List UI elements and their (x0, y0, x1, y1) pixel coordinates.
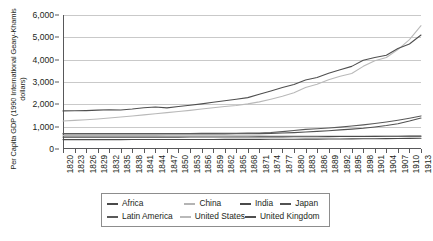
x-axis-tick-mark (421, 149, 422, 153)
legend-item-label: China (199, 199, 221, 208)
x-axis-tick-label: 1898 (367, 155, 376, 173)
series-line-japan (63, 118, 421, 134)
x-axis-tick-mark (63, 149, 64, 153)
x-axis-tick-label: 1847 (171, 155, 180, 173)
x-axis-tick-mark (109, 149, 110, 153)
x-axis-tick-label: 1832 (113, 155, 122, 173)
x-axis-tick-mark (329, 149, 330, 153)
x-axis-tick-mark (132, 149, 133, 153)
legend-line-icon (184, 203, 195, 205)
x-axis-tick-mark (75, 149, 76, 153)
y-axis-tick-mark (55, 126, 59, 127)
legend-item-japan[interactable]: Japan (280, 199, 324, 208)
y-axis-tick-mark (55, 149, 59, 150)
legend-item-label: United States (195, 212, 245, 221)
plot-area (63, 15, 421, 149)
x-axis-tick-label: 1871 (263, 155, 272, 173)
series-line-united-states (63, 26, 421, 121)
x-axis-tick-mark (317, 149, 318, 153)
x-axis-tick-label: 1901 (378, 155, 387, 173)
x-axis-tick-mark (271, 149, 272, 153)
y-axis-tick-label: 0 (49, 145, 54, 154)
legend-item-united-states[interactable]: United States (180, 212, 245, 221)
x-axis-tick-label: 1841 (147, 155, 156, 173)
x-axis-tick-label: 1880 (298, 155, 307, 173)
chart-legend: AfricaChinaIndiaJapanLatin AmericaUnited… (101, 193, 330, 227)
legend-row: AfricaChinaIndiaJapan (107, 197, 324, 210)
legend-line-icon (180, 216, 191, 218)
x-axis-tick-mark (409, 149, 410, 153)
x-axis-tick-mark (352, 149, 353, 153)
x-axis-tick-mark (144, 149, 145, 153)
x-axis-tick-label: 1865 (240, 155, 249, 173)
x-axis-tick-mark (375, 149, 376, 153)
x-axis-tick-label: 1856 (205, 155, 214, 173)
legend-item-label: Africa (122, 199, 143, 208)
x-axis-tick-label: 1835 (124, 155, 133, 173)
y-axis-tick-labels: 01,0002,0003,0004,0005,0006,000 (14, 15, 59, 149)
x-axis-tick-mark (363, 149, 364, 153)
x-axis-tick-labels: 1820182318261829183218351838184118441847… (63, 149, 421, 183)
x-axis-tick-label: 1844 (159, 155, 168, 173)
x-axis-tick-label: 1877 (286, 155, 295, 173)
legend-line-icon (280, 203, 291, 205)
legend-line-icon (107, 203, 118, 205)
x-axis-tick-mark (225, 149, 226, 153)
y-axis-tick-mark (55, 59, 59, 60)
y-axis-tick-label: 3,000 (32, 78, 54, 87)
legend-item-label: Latin America (122, 212, 173, 221)
x-axis-tick-label: 1874 (274, 155, 283, 173)
y-axis-tick-mark (55, 15, 59, 16)
legend-item-label: Japan (295, 199, 318, 208)
x-axis-tick-mark (155, 149, 156, 153)
legend-line-icon (245, 216, 256, 218)
x-axis-tick-mark (259, 149, 260, 153)
x-axis-tick-mark (167, 149, 168, 153)
y-axis-tick-label: 2,000 (32, 100, 54, 109)
series-line-africa (63, 138, 421, 139)
x-axis-tick-label: 1823 (78, 155, 87, 173)
x-axis-tick-label: 1886 (321, 155, 330, 173)
x-axis-tick-label: 1853 (194, 155, 203, 173)
x-axis-tick-label: 1907 (402, 155, 411, 173)
x-axis-tick-mark (98, 149, 99, 153)
x-axis-tick-mark (294, 149, 295, 153)
x-axis-tick-label: 1904 (390, 155, 399, 173)
x-axis-tick-mark (306, 149, 307, 153)
x-axis-tick-mark (86, 149, 87, 153)
x-axis-tick-mark (398, 149, 399, 153)
data-series-layer (63, 15, 421, 149)
x-axis-tick-label: 1838 (136, 155, 145, 173)
legend-item-united-kingdom[interactable]: United Kingdom (245, 212, 324, 221)
x-axis-tick-mark (248, 149, 249, 153)
legend-line-icon (107, 216, 118, 218)
x-axis-tick-mark (178, 149, 179, 153)
x-axis-tick-label: 1829 (101, 155, 110, 173)
legend-row: Latin AmericaUnited StatesUnited Kingdom (107, 210, 324, 223)
x-axis-tick-label: 1883 (309, 155, 318, 173)
series-line-latin-america (63, 116, 421, 134)
x-axis-tick-mark (121, 149, 122, 153)
x-axis-tick-label: 1868 (251, 155, 260, 173)
y-axis-tick-mark (55, 104, 59, 105)
x-axis-tick-mark (190, 149, 191, 153)
x-axis-tick-mark (202, 149, 203, 153)
series-line-united-kingdom (63, 35, 421, 111)
x-axis-tick-mark (213, 149, 214, 153)
x-axis-tick-mark (236, 149, 237, 153)
x-axis-tick-label: 1826 (90, 155, 99, 173)
x-axis-tick-label: 1850 (182, 155, 191, 173)
x-axis-tick-label: 1889 (332, 155, 341, 173)
y-axis-tick-label: 6,000 (32, 11, 54, 20)
x-axis-tick-label: 1895 (355, 155, 364, 173)
x-axis-tick-mark (386, 149, 387, 153)
legend-item-label: India (255, 199, 273, 208)
legend-line-icon (240, 203, 251, 205)
legend-item-latin-america[interactable]: Latin America (107, 212, 180, 221)
legend-item-africa[interactable]: Africa (107, 199, 184, 208)
x-axis-tick-label: 1913 (425, 155, 433, 173)
legend-item-china[interactable]: China (184, 199, 240, 208)
legend-item-india[interactable]: India (240, 199, 280, 208)
x-axis-tick-mark (340, 149, 341, 153)
